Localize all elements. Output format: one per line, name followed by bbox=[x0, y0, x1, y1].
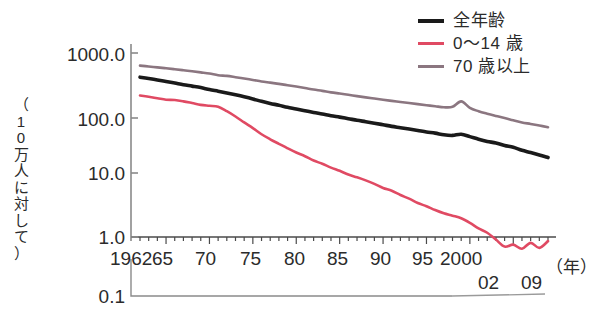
tick-marks bbox=[131, 53, 548, 244]
legend-item-0-14: 0〜14 歳 bbox=[418, 32, 603, 55]
y-tick-label: 1.0 bbox=[99, 227, 125, 249]
y-axis-label-char: 1 bbox=[8, 114, 34, 131]
x-tick-label: 85 bbox=[327, 248, 348, 270]
legend-label: 0〜14 歳 bbox=[453, 34, 523, 53]
y-tick-label: 1000.0 bbox=[67, 44, 125, 66]
y-axis-label-char: し bbox=[8, 213, 34, 230]
y-axis-label: （10万人に対して） bbox=[8, 97, 34, 262]
x-tick-label: 90 bbox=[370, 248, 391, 270]
y-axis-label-char: て bbox=[8, 229, 34, 246]
series-lines bbox=[140, 66, 548, 249]
x-tick-label: 80 bbox=[284, 248, 305, 270]
x-tick-label: 70 bbox=[195, 248, 216, 270]
y-axis-label-char: 0 bbox=[8, 130, 34, 147]
y-axis-label-char: 対 bbox=[8, 196, 34, 213]
x-tick-label: 1962 bbox=[110, 248, 152, 270]
legend-swatch-line-icon bbox=[418, 42, 444, 45]
legend-item-70-plus: 70 歳以上 bbox=[418, 55, 603, 78]
y-tick-label: 100.0 bbox=[77, 109, 125, 131]
chart-legend: 全年齢 0〜14 歳 70 歳以上 bbox=[418, 9, 603, 78]
x-tick-label: 65 bbox=[152, 248, 173, 270]
x-tick-label: 09 bbox=[521, 272, 542, 294]
x-tick-label: 75 bbox=[240, 248, 261, 270]
chart-container: （10万人に対して） 1000.0100.010.01.00.1 1962657… bbox=[0, 0, 608, 331]
legend-label: 70 歳以上 bbox=[453, 57, 531, 76]
y-tick-label: 10.0 bbox=[88, 163, 125, 185]
legend-swatch-line-icon bbox=[418, 19, 444, 23]
y-axis-label-char: （ bbox=[8, 97, 34, 114]
y-tick-label: 0.1 bbox=[99, 286, 125, 308]
y-axis-label-char: 万 bbox=[8, 147, 34, 164]
series-line-0 bbox=[140, 77, 548, 157]
x-axis-unit-label: （年） bbox=[546, 253, 597, 278]
y-axis-label-char: 人 bbox=[8, 163, 34, 180]
legend-item-all-ages: 全年齢 bbox=[418, 9, 603, 32]
y-axis-label-char: ） bbox=[8, 246, 34, 263]
legend-label: 全年齢 bbox=[453, 11, 506, 30]
legend-swatch-line-icon bbox=[418, 65, 444, 68]
x-tick-label: 2000 bbox=[440, 248, 482, 270]
x-tick-label: 02 bbox=[478, 272, 499, 294]
y-axis-label-char: に bbox=[8, 180, 34, 197]
x-tick-label: 95 bbox=[412, 248, 433, 270]
